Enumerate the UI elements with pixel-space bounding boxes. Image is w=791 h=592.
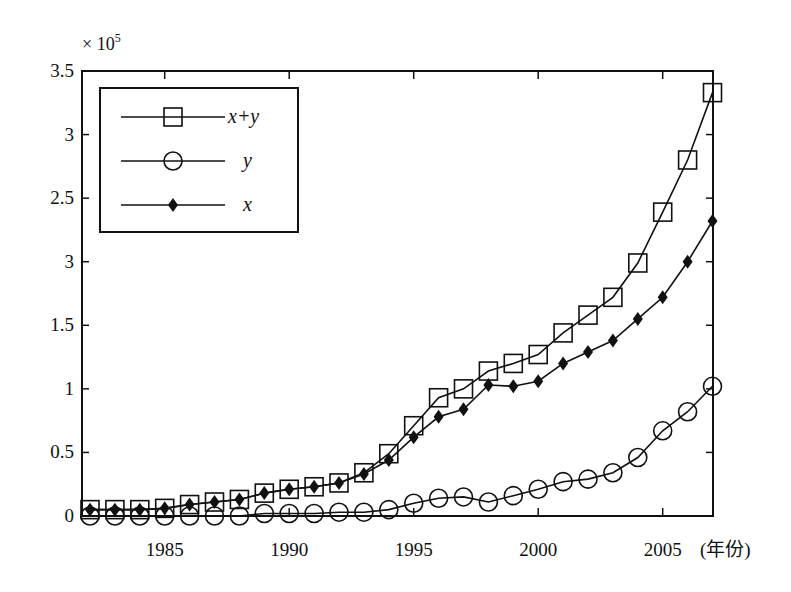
diamond-marker-icon bbox=[384, 453, 394, 467]
diamond-marker-icon bbox=[583, 345, 593, 359]
y-multiplier-label: × 105 bbox=[82, 31, 121, 54]
x-tick-label: 1985 bbox=[146, 539, 184, 560]
diamond-marker-icon bbox=[334, 476, 344, 490]
y-tick-label: 0.5 bbox=[50, 441, 74, 462]
y-tick-label: 3 bbox=[65, 124, 75, 145]
x-tick-label: 2005 bbox=[644, 539, 682, 560]
diamond-marker-icon bbox=[434, 410, 444, 424]
diamond-marker-icon bbox=[409, 430, 419, 444]
series-y bbox=[81, 377, 722, 525]
diamond-marker-icon bbox=[110, 503, 120, 517]
diamond-marker-icon bbox=[135, 503, 145, 517]
diamond-marker-icon bbox=[459, 402, 469, 416]
series-line bbox=[90, 386, 713, 516]
diamond-marker-icon bbox=[259, 486, 269, 500]
diamond-marker-icon bbox=[160, 501, 170, 515]
diamond-marker-icon bbox=[608, 334, 618, 348]
y-tick-label: 2.5 bbox=[50, 187, 74, 208]
diamond-marker-icon bbox=[85, 503, 95, 517]
y-tick-label: 0 bbox=[65, 505, 75, 526]
series-x bbox=[85, 214, 718, 517]
x-axis-unit-label: (年份) bbox=[700, 539, 751, 561]
y-tick-label: 3.5 bbox=[50, 60, 74, 81]
x-tick-label: 1990 bbox=[270, 539, 308, 560]
diamond-marker-icon bbox=[508, 379, 518, 393]
legend-label: y bbox=[241, 149, 252, 172]
y-tick-label: 1 bbox=[65, 378, 75, 399]
x-tick-label: 2000 bbox=[519, 539, 557, 560]
diamond-marker-icon bbox=[309, 480, 319, 494]
diamond-marker-icon bbox=[284, 482, 294, 496]
y-tick-label: 1.5 bbox=[50, 314, 74, 335]
legend-label: x bbox=[242, 193, 252, 215]
legend-box bbox=[100, 88, 298, 232]
legend-label: x+y bbox=[227, 105, 259, 128]
diamond-marker-icon bbox=[185, 498, 195, 512]
legend: x+yyx bbox=[100, 88, 298, 232]
diamond-marker-icon bbox=[633, 312, 643, 326]
y-tick-label: 3 bbox=[65, 251, 75, 272]
line-chart: 00.511.532.533.519851990199520002005 x+y… bbox=[0, 0, 791, 592]
x-tick-label: 1995 bbox=[395, 539, 433, 560]
diamond-marker-icon bbox=[558, 356, 568, 370]
diamond-marker-icon bbox=[533, 374, 543, 388]
diamond-marker-icon bbox=[234, 492, 244, 506]
